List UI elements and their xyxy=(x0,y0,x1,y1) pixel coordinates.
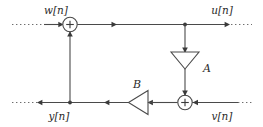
arrowhead-top-wire-mid xyxy=(112,22,118,28)
diagram-canvas: w[n] u[n] y[n] v[n] A B xyxy=(0,0,263,127)
label-amplifier-a: A xyxy=(202,62,211,75)
label-v-signal: v[n] xyxy=(212,110,234,122)
label-y-signal: y[n] xyxy=(48,110,71,122)
label-amplifier-b: B xyxy=(132,78,141,91)
amplifier-b xyxy=(129,91,149,115)
label-w-signal: w[n] xyxy=(44,4,69,16)
signal-flow-diagram: w[n] u[n] y[n] v[n] A B xyxy=(0,0,263,127)
amplifier-a xyxy=(171,52,199,69)
label-u-signal: u[n] xyxy=(211,4,234,16)
arrowhead-u-output xyxy=(225,22,230,28)
arrowhead-into-top-adder-vertical xyxy=(67,31,73,36)
arrowhead-into-bottom-adder xyxy=(193,100,198,106)
arrowhead-bottom-wire-mid xyxy=(104,100,109,106)
arrowhead-y-output xyxy=(37,100,42,106)
